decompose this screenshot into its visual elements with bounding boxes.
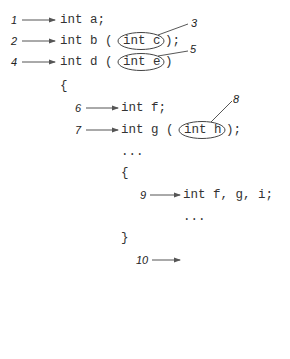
row-label-9: 9 <box>140 188 146 202</box>
code-line-2-tail: ); <box>165 34 180 48</box>
row-label-7: 7 <box>75 123 81 137</box>
row-label-1: 1 <box>11 13 17 27</box>
code-line-1: int a; <box>60 13 105 27</box>
code-line-7-tail: ); <box>226 123 241 137</box>
code-line-4: int d ( <box>60 55 113 69</box>
row-label-4: 4 <box>11 55 17 69</box>
row-label-10: 10 <box>136 253 148 267</box>
circled-param-h: int h <box>184 123 222 137</box>
scope-diagram: 1 2 4 6 7 9 10 3 5 8 int a; int b ( int … <box>0 0 290 359</box>
callout-label-5: 5 <box>190 42 196 56</box>
row-label-6: 6 <box>75 101 81 115</box>
callout-label-8: 8 <box>233 92 239 106</box>
code-line-9: int f, g, i; <box>183 188 273 202</box>
ellipsis-2: ... <box>183 210 206 224</box>
circled-param-c: int c <box>123 34 161 48</box>
code-line-2: int b ( <box>60 34 113 48</box>
brace-open-inner-1: { <box>121 166 129 180</box>
code-line-7: int g ( <box>121 123 174 137</box>
circled-param-e: int e <box>123 55 161 69</box>
ellipsis-1: ... <box>121 145 144 159</box>
row-label-2: 2 <box>11 34 17 48</box>
arrows-overlay <box>0 0 290 359</box>
code-line-4-tail: ) <box>165 55 173 69</box>
code-line-6: int f; <box>121 101 166 115</box>
brace-open-outer: { <box>60 79 68 93</box>
brace-close-inner-1: } <box>121 231 129 245</box>
callout-label-3: 3 <box>191 16 197 30</box>
